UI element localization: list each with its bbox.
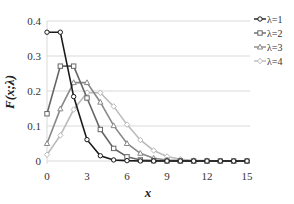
y-tick-label: 0.3 bbox=[27, 50, 41, 62]
legend-label: λ=4 bbox=[267, 56, 283, 67]
legend-item: λ=3 bbox=[254, 42, 283, 53]
circle-marker-icon bbox=[45, 30, 49, 34]
data-series bbox=[44, 30, 249, 164]
series-line bbox=[47, 93, 247, 161]
x-tick-label: 15 bbox=[242, 170, 254, 182]
gridlines bbox=[47, 21, 250, 164]
square-marker-icon bbox=[71, 64, 75, 68]
y-tick-label: 0 bbox=[36, 155, 42, 167]
circle-marker-icon bbox=[231, 159, 235, 163]
square-marker-icon bbox=[85, 96, 89, 100]
circle-marker-icon bbox=[218, 159, 222, 163]
square-marker-icon bbox=[111, 146, 115, 150]
series-line bbox=[47, 66, 247, 161]
legend-label: λ=1 bbox=[267, 14, 283, 25]
legend-item: λ=4 bbox=[254, 56, 283, 67]
legend-item: λ=1 bbox=[254, 14, 283, 25]
circle-marker-icon bbox=[258, 17, 262, 21]
circle-marker-icon bbox=[98, 154, 102, 158]
legend-item: λ=2 bbox=[254, 28, 283, 39]
y-tick-label: 0.2 bbox=[27, 85, 41, 97]
triangle-marker-icon bbox=[84, 80, 89, 85]
circle-marker-icon bbox=[71, 94, 75, 98]
circle-marker-icon bbox=[138, 159, 142, 163]
circle-marker-icon bbox=[151, 159, 155, 163]
circle-marker-icon bbox=[58, 30, 62, 34]
y-axis-ticks: 00.10.20.30.4 bbox=[27, 15, 41, 167]
poisson-chart: 00.10.20.30.4 03691215 λ=1λ=2λ=3λ=4 x F(… bbox=[0, 0, 294, 204]
y-axis-title: F(x;λ) bbox=[2, 75, 17, 110]
x-tick-label: 0 bbox=[44, 170, 50, 182]
y-tick-label: 0.1 bbox=[27, 120, 41, 132]
square-marker-icon bbox=[45, 112, 49, 116]
series-line bbox=[47, 83, 247, 161]
circle-marker-icon bbox=[191, 159, 195, 163]
circle-marker-icon bbox=[205, 159, 209, 163]
legend: λ=1λ=2λ=3λ=4 bbox=[254, 14, 283, 67]
legend-label: λ=3 bbox=[267, 42, 283, 53]
series-λ=2 bbox=[45, 64, 249, 163]
legend-label: λ=2 bbox=[267, 28, 283, 39]
x-tick-label: 12 bbox=[202, 170, 213, 182]
circle-marker-icon bbox=[178, 159, 182, 163]
square-marker-icon bbox=[98, 127, 102, 131]
series-λ=3 bbox=[44, 80, 249, 163]
circle-marker-icon bbox=[165, 159, 169, 163]
square-marker-icon bbox=[258, 31, 262, 35]
x-axis-ticks: 03691215 bbox=[44, 170, 253, 182]
series-λ=1 bbox=[45, 30, 249, 163]
triangle-marker-icon bbox=[44, 141, 49, 146]
x-tick-label: 3 bbox=[84, 170, 90, 182]
x-tick-label: 6 bbox=[124, 170, 130, 182]
circle-marker-icon bbox=[245, 159, 249, 163]
x-tick-label: 9 bbox=[164, 170, 170, 182]
square-marker-icon bbox=[58, 64, 62, 68]
series-line bbox=[47, 32, 247, 161]
circle-marker-icon bbox=[85, 137, 89, 141]
triangle-marker-icon bbox=[257, 44, 262, 49]
circle-marker-icon bbox=[111, 158, 115, 162]
y-tick-label: 0.4 bbox=[27, 15, 41, 27]
circle-marker-icon bbox=[125, 158, 129, 162]
x-axis-title: x bbox=[144, 185, 152, 200]
diamond-marker-icon bbox=[257, 58, 262, 64]
